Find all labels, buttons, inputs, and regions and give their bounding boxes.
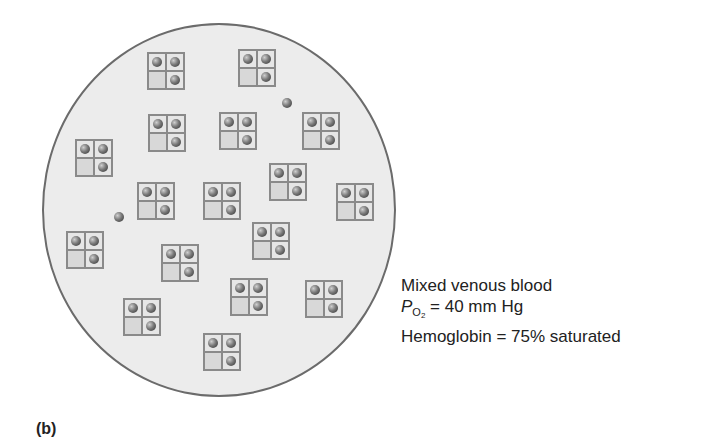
bound-site	[307, 282, 323, 298]
oxygen-icon	[292, 168, 302, 178]
oxygen-icon	[80, 144, 90, 154]
hemoglobin-molecule	[252, 222, 290, 260]
hemoglobin-molecule	[305, 280, 343, 318]
bound-site	[271, 165, 287, 181]
empty-site	[232, 298, 248, 314]
empty-site	[307, 300, 323, 316]
empty-site	[254, 242, 270, 258]
bound-site	[223, 335, 239, 351]
diagram-stage: Mixed venous blood PO2 = 40 mm Hg Hemogl…	[0, 0, 706, 440]
bound-site	[250, 280, 266, 296]
oxygen-icon	[160, 187, 170, 197]
bound-site	[139, 184, 155, 200]
bound-site	[86, 251, 102, 267]
hemoglobin-molecule	[75, 139, 113, 177]
bound-site	[239, 132, 255, 148]
bound-site	[95, 159, 111, 175]
hemoglobin-molecule	[336, 183, 374, 221]
bound-site	[205, 335, 221, 351]
oxygen-icon	[160, 205, 170, 215]
oxygen-icon	[253, 283, 263, 293]
oxygen-icon	[152, 57, 162, 67]
oxygen-icon	[261, 72, 271, 82]
bound-site	[239, 114, 255, 130]
empty-site	[68, 251, 84, 267]
hemoglobin-molecule	[161, 244, 199, 282]
bound-site	[223, 202, 239, 218]
oxygen-icon	[208, 187, 218, 197]
empty-site	[163, 264, 179, 280]
oxygen-icon	[328, 303, 338, 313]
bound-site	[232, 280, 248, 296]
oxygen-icon	[310, 285, 320, 295]
oxygen-icon	[71, 236, 81, 246]
empty-site	[221, 132, 237, 148]
bound-site	[168, 134, 184, 150]
empty-site	[240, 69, 256, 85]
bound-site	[322, 132, 338, 148]
hemoglobin-molecule	[230, 278, 268, 316]
oxygen-icon	[328, 285, 338, 295]
hemoglobin-molecule	[238, 49, 276, 87]
bound-site	[338, 185, 354, 201]
bound-site	[254, 224, 270, 240]
oxygen-icon	[274, 168, 284, 178]
bound-site	[167, 72, 183, 88]
bound-site	[143, 318, 159, 334]
bound-site	[289, 183, 305, 199]
bound-site	[289, 165, 305, 181]
oxygen-icon	[243, 54, 253, 64]
caption-line-saturation: Hemoglobin = 75% saturated	[401, 326, 621, 347]
hemoglobin-molecule	[66, 231, 104, 269]
oxygen-icon	[170, 57, 180, 67]
free-oxygen-icon	[282, 98, 292, 108]
empty-site	[304, 132, 320, 148]
bound-site	[250, 298, 266, 314]
oxygen-icon	[142, 187, 152, 197]
subscript-o: O	[412, 306, 421, 318]
oxygen-icon	[171, 137, 181, 147]
oxygen-icon	[166, 249, 176, 259]
oxygen-icon	[184, 267, 194, 277]
bound-site	[258, 51, 274, 67]
oxygen-icon	[226, 187, 236, 197]
empty-site	[125, 318, 141, 334]
oxygen-icon	[153, 119, 163, 129]
empty-site	[205, 202, 221, 218]
bound-site	[304, 114, 320, 130]
hemoglobin-molecule	[203, 182, 241, 220]
oxygen-icon	[242, 135, 252, 145]
oxygen-icon	[292, 186, 302, 196]
pressure-subscript: O2	[412, 306, 425, 318]
bound-site	[205, 184, 221, 200]
empty-site	[139, 202, 155, 218]
oxygen-icon	[98, 162, 108, 172]
empty-site	[77, 159, 93, 175]
oxygen-icon	[89, 254, 99, 264]
bound-site	[86, 233, 102, 249]
bound-site	[258, 69, 274, 85]
bound-site	[221, 114, 237, 130]
oxygen-icon	[128, 303, 138, 313]
bound-site	[150, 116, 166, 132]
hemoglobin-molecule	[203, 333, 241, 371]
free-oxygen-icon	[114, 212, 124, 222]
bound-site	[149, 54, 165, 70]
bound-site	[95, 141, 111, 157]
oxygen-icon	[224, 117, 234, 127]
bound-site	[143, 300, 159, 316]
bound-site	[77, 141, 93, 157]
hemoglobin-molecule	[302, 112, 340, 150]
oxygen-icon	[171, 119, 181, 129]
bound-site	[181, 264, 197, 280]
hemoglobin-molecule	[148, 114, 186, 152]
bound-site	[325, 282, 341, 298]
hemoglobin-molecule	[137, 182, 175, 220]
oxygen-icon	[98, 144, 108, 154]
oxygen-icon	[275, 245, 285, 255]
pressure-symbol: P	[401, 297, 412, 316]
bound-site	[157, 184, 173, 200]
bound-site	[181, 246, 197, 262]
oxygen-icon	[359, 206, 369, 216]
oxygen-icon	[226, 356, 236, 366]
